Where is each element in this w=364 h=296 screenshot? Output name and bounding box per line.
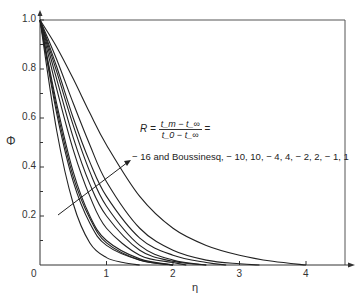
x-tick-label: 4	[303, 268, 309, 279]
curve-2	[40, 20, 226, 265]
curve--2	[40, 20, 206, 265]
x-axis-arrow-icon	[348, 263, 355, 268]
y-tick-label: 0.4	[14, 160, 36, 171]
curve--16	[40, 20, 140, 265]
r-equation-equals: =	[205, 123, 211, 134]
x-tick-label: 3	[237, 268, 243, 279]
y-tick-label: 0.8	[14, 62, 36, 73]
r-equation-lhs: R =	[140, 123, 156, 134]
arrow-head-icon	[124, 160, 131, 166]
r-equation-numerator: t_m − t_∞	[159, 119, 202, 130]
r-values-text: − 16 and Boussinesq, − 10, 10, − 4, 4, −…	[132, 151, 349, 162]
y-axis-label: Φ	[6, 134, 16, 148]
y-tick-label: 0.6	[14, 111, 36, 122]
y-tick-label: 1.0	[14, 13, 36, 24]
r-equation-denominator: t_0 − t_∞	[159, 130, 202, 140]
plot-area	[0, 0, 364, 296]
r-equation: R = t_m − t_∞ t_0 − t_∞ =	[140, 119, 210, 140]
x-tick-label: 2	[170, 268, 176, 279]
y-axis-arrow-icon	[38, 10, 43, 16]
curve--1	[40, 20, 259, 265]
x-tick-label: 1	[104, 268, 110, 279]
origin-label: 0	[31, 268, 37, 279]
r-equation-fraction: t_m − t_∞ t_0 − t_∞	[159, 119, 202, 140]
x-axis-label: η	[192, 281, 198, 293]
y-tick-label: 0.2	[14, 209, 36, 220]
curve-1	[40, 20, 306, 265]
